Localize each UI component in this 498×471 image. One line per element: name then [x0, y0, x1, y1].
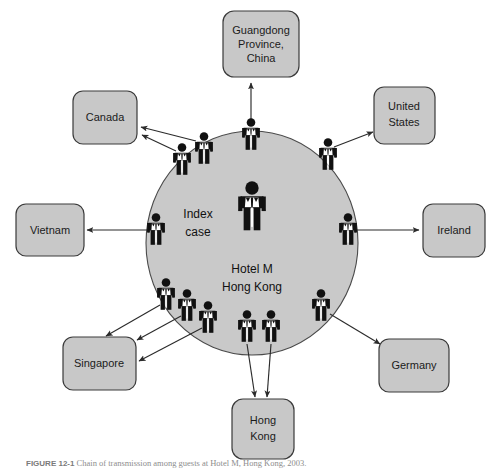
arrow-to-united-states — [334, 132, 373, 147]
box-label-guangdong-line1: Guangdong — [232, 24, 290, 36]
box-label-hong-kong-line1: Hong — [250, 414, 276, 426]
box-label-hong-kong-line2: Kong — [250, 430, 276, 442]
hotel-label-line2: Hong Kong — [222, 280, 282, 294]
arrow-to-canada-a — [142, 135, 176, 151]
figure-caption-body: Chain of transmission among guests at Ho… — [77, 458, 307, 468]
destination-box-germany[interactable]: Germany — [379, 339, 449, 392]
destination-box-canada[interactable]: Canada — [73, 91, 137, 144]
sars-transmission-diagram: Index case Hotel M Hong Kong Guangdong P… — [0, 0, 498, 471]
destination-box-hong-kong[interactable]: Hong Kong — [232, 399, 294, 459]
index-case-label-line1: Index — [183, 207, 212, 221]
box-label-canada: Canada — [86, 111, 125, 123]
box-label-germany: Germany — [391, 359, 437, 371]
box-label-guangdong-line2: Province, — [238, 38, 284, 50]
destination-box-ireland[interactable]: Ireland — [423, 204, 485, 257]
index-case-label-line2: case — [185, 225, 211, 239]
box-label-guangdong-line3: China — [247, 52, 277, 64]
box-label-ireland: Ireland — [437, 224, 471, 236]
box-label-united-states-line1: United — [388, 100, 420, 112]
arrow-to-germany — [330, 314, 380, 344]
box-label-vietnam: Vietnam — [30, 224, 70, 236]
figure-container: Index case Hotel M Hong Kong Guangdong P… — [0, 0, 498, 471]
hotel-label-line1: Hotel M — [231, 262, 272, 276]
destination-box-singapore[interactable]: Singapore — [63, 337, 136, 390]
arrow-to-singapore-b — [137, 316, 181, 340]
box-label-united-states-line2: States — [388, 116, 420, 128]
arrow-to-singapore-c — [139, 328, 202, 361]
destination-box-united-states[interactable]: United States — [374, 87, 435, 144]
figure-caption-number: FIGURE 12-1 — [26, 459, 74, 468]
figure-caption: FIGURE 12-1 Chain of transmission among … — [26, 458, 476, 469]
destination-box-guangdong[interactable]: Guangdong Province, China — [223, 11, 299, 77]
box-label-singapore: Singapore — [74, 357, 124, 369]
destination-box-vietnam[interactable]: Vietnam — [16, 204, 84, 256]
